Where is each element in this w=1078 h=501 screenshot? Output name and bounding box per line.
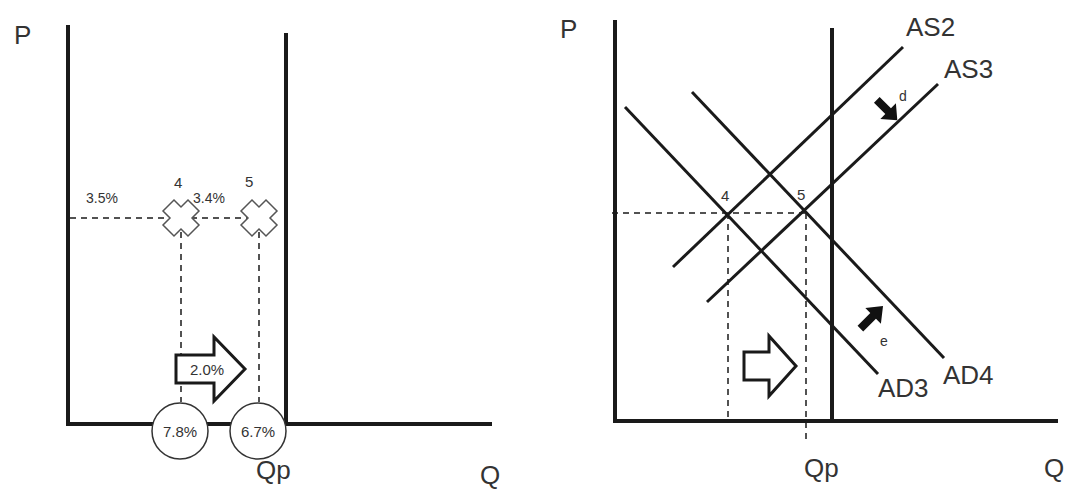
circle-label-point-5: 6.7% (230, 403, 286, 459)
label-as2: AS2 (906, 12, 955, 42)
curve-ad3 (625, 107, 878, 374)
left-point-5-label: 5 (245, 173, 253, 190)
right-point-5-label: 5 (797, 186, 805, 203)
right-x-axis-label: Q (1044, 453, 1064, 483)
right-diagram: P Q Qp AS2 AS3 AD3 AD4 4 5 d e (560, 12, 1064, 483)
left-shift-arrow: 2.0% (176, 337, 245, 401)
curve-as3 (707, 84, 938, 302)
circle-label-point-4: 7.8% (152, 403, 208, 459)
left-point-4-circle-value: 7.8% (163, 423, 197, 440)
left-y-axis-label: P (14, 20, 31, 50)
left-point-5-rate: 3.4% (193, 190, 225, 206)
right-qp-label: Qp (804, 453, 839, 483)
right-point-4-label: 4 (721, 187, 729, 204)
left-x-axis-label: Q (480, 460, 500, 490)
left-point-4-rate: 3.5% (86, 190, 118, 206)
diagram-canvas: P Q Qp 4 5 3.5% 3.4% 2.0% 7.8% 6. (0, 0, 1078, 501)
left-point-5-circle-value: 6.7% (241, 423, 275, 440)
label-ad4: AD4 (943, 360, 994, 390)
right-hollow-arrow-icon (744, 336, 796, 396)
label-ad3: AD3 (878, 373, 929, 403)
curve-as2 (673, 47, 903, 267)
right-y-axis-label: P (560, 14, 577, 44)
shift-arrow-d-label: d (899, 88, 907, 104)
left-shift-arrow-label: 2.0% (190, 361, 224, 378)
curve-ad4 (692, 92, 944, 358)
label-as3: AS3 (944, 54, 993, 84)
left-diagram: P Q Qp 4 5 3.5% 3.4% 2.0% 7.8% 6. (14, 20, 500, 490)
shift-arrow-e-label: e (880, 333, 888, 349)
shift-arrow-e-icon (853, 298, 891, 336)
left-point-4-label: 4 (174, 174, 182, 191)
